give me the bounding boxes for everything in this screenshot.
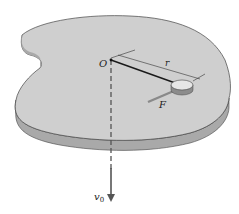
velocity-label: v0 bbox=[94, 191, 104, 204]
velocity-arrowhead-icon bbox=[107, 194, 115, 202]
origin-point bbox=[110, 59, 113, 62]
velocity-subscript: 0 bbox=[100, 196, 104, 204]
origin-label: O bbox=[99, 58, 107, 69]
diagram-canvas: O r F v0 bbox=[0, 0, 239, 214]
force-label: F bbox=[158, 99, 167, 110]
puck-top bbox=[171, 80, 193, 90]
radius-label: r bbox=[165, 58, 170, 68]
